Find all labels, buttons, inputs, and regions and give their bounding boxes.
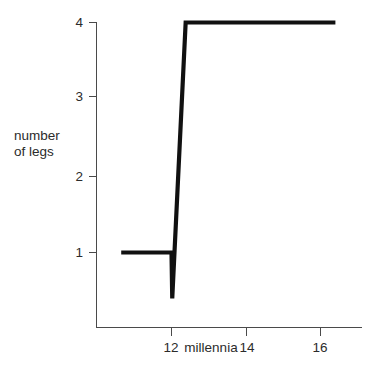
plot-area: 4 3 2 1 12 millennia 14 16 [0,0,376,372]
data-line-number-of-legs [121,23,335,299]
chart-figure: number of legs 4 3 2 1 12 millennia 14 1… [0,0,376,372]
x-tick-label-12: 12 [163,340,178,355]
y-tick-label-1: 1 [75,245,83,260]
y-tick-label-3: 3 [75,89,83,104]
y-tick-label-4: 4 [75,15,83,30]
x-tick-label-16: 16 [312,340,327,355]
y-tick-label-2: 2 [75,169,83,184]
x-axis-title: millennia [184,340,238,355]
x-tick-label-14: 14 [239,340,255,355]
